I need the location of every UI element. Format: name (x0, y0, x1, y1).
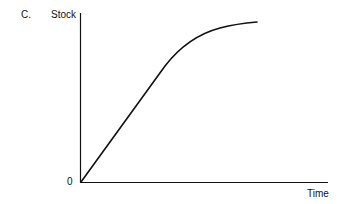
stock-curve (81, 22, 257, 182)
stock-time-chart (0, 0, 345, 204)
